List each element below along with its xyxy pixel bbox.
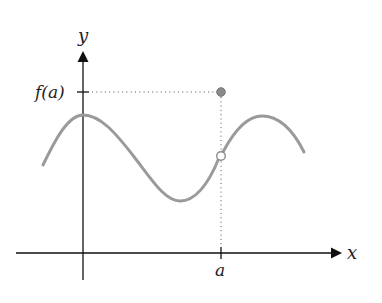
y-axis-label: y bbox=[77, 25, 89, 46]
filled-point bbox=[217, 88, 226, 97]
function-curve bbox=[43, 115, 304, 201]
function-graph: y x f(a) a bbox=[0, 0, 382, 303]
y-tick-label: f(a) bbox=[33, 82, 65, 102]
y-axis-arrow-icon bbox=[78, 51, 89, 62]
open-point bbox=[217, 152, 226, 161]
x-axis-arrow-icon bbox=[331, 248, 342, 259]
x-axis-label: x bbox=[347, 242, 357, 263]
x-tick-label: a bbox=[215, 260, 225, 280]
